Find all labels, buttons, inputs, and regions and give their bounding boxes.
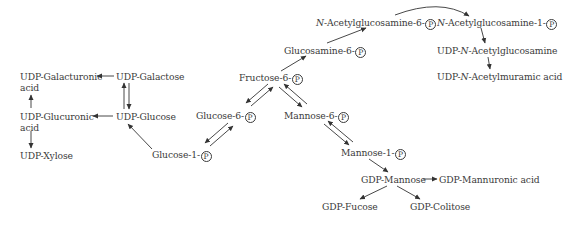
node-label: UDP-Xylose [20,150,73,161]
node-label: GDP-Fucose [322,201,378,212]
node-gdp-fucose: GDP-Fucose [322,201,378,212]
node-label: UDP-Galactose [116,71,184,82]
phosphate-circle-icon: P [201,151,212,162]
node-label: Glucose-6- [196,110,244,121]
node-mannose-6-phosphate: Mannose-6-P [284,110,349,123]
arrow-mannose1p-to-mannose6p [328,121,353,142]
node-n-acetylglucosamine-1-phosphate: N-Acetylglucosamine-1-P [437,17,557,30]
phosphate-circle-icon: P [355,47,366,58]
node-label: Mannose-1- [341,147,394,158]
node-mannose-1-phosphate: Mannose-1-P [341,147,406,160]
node-label: Glucose-1- [152,149,200,160]
node-label: GDP-Mannuronic acid [439,174,540,185]
node-glucose-1-phosphate: Glucose-1-P [152,149,212,162]
arrow-glucose1p-to-udpglucose [128,124,152,149]
phosphate-circle-icon: P [338,112,349,123]
node-label: -Acetylglucosamine-6- [324,17,425,28]
arrow-glucose6p-to-fructose6p [251,87,273,106]
phosphate-circle-icon: P [425,19,436,30]
node-fructose-6-phosphate: Fructose-6-P [239,72,303,85]
node-label-prefix: N [316,17,324,28]
arrow-fructose6p-to-glucosamine6p [281,56,306,71]
node-udp-n-acetylglucosamine: UDP-N-Acetylglucosamine [437,45,557,56]
node-gdp-mannuronic-acid: GDP-Mannuronic acid [439,174,540,185]
phosphate-circle-icon: P [546,19,557,30]
node-label-pre: UDP- [437,71,461,82]
arrow-mannose6p-to-mannose1p [324,124,349,145]
node-label-line1: UDP-Galacturonic [20,71,102,82]
node-label: UDP-Glucose [116,111,176,122]
node-gdp-colitose: GDP-Colitose [410,201,470,212]
node-gdp-mannose: GDP-Mannose [361,174,426,185]
phosphate-circle-icon: P [245,112,256,123]
node-label: Mannose-6- [284,110,337,121]
arrow-udpnacglcn-to-udpnacmur [488,57,490,69]
arrow-gdpmannose-to-gdpfucose [360,186,387,199]
node-udp-n-acetylmuramic-acid: UDP-N-Acetylmuramic acid [437,71,562,82]
node-label-line2: acid [20,122,94,133]
node-udp-galactose: UDP-Galactose [116,71,184,82]
node-label-line2: acid [20,82,102,93]
node-label-line1: UDP-Glucuronic [20,111,94,122]
node-label: -Acetylmuramic acid [468,71,562,82]
node-label: -Acetylglucosamine-1- [445,17,546,28]
node-label-prefix: N [437,17,445,28]
phosphate-circle-icon: P [395,149,406,160]
node-label-pre: UDP- [437,45,461,56]
arrow-nacglcn6p-to-nacglcn1p [395,7,469,16]
metabolic-pathway-diagram: UDP-Galacturonic acid UDP-Galactose UDP-… [0,0,575,225]
node-glucose-6-phosphate: Glucose-6-P [196,110,256,123]
node-udp-xylose: UDP-Xylose [20,150,73,161]
node-n-acetylglucosamine-6-phosphate: N-Acetylglucosamine-6-P [316,17,436,30]
node-label: -Acetylglucosamine [468,45,557,56]
arrow-glucosamine6p-to-nacglcn6p [327,28,366,43]
node-label: Glucosamine-6- [284,45,355,56]
phosphate-circle-icon: P [292,74,303,85]
node-udp-glucose: UDP-Glucose [116,111,176,122]
arrow-nacglcn1p-to-udpnacglcn [481,28,485,43]
node-udp-glucuronic-acid: UDP-Glucuronic acid [20,111,94,133]
node-label: Fructose-6- [239,72,291,83]
node-udp-galacturonic-acid: UDP-Galacturonic acid [20,71,102,93]
arrow-gdpmannose-to-gdpcolitose [397,186,420,199]
arrow-mannose1p-to-gdpmannose [369,159,388,172]
node-glucosamine-6-phosphate: Glucosamine-6-P [284,45,366,58]
node-label: GDP-Colitose [410,201,470,212]
node-label: GDP-Mannose [361,174,426,185]
arrow-fructose6p-to-glucose6p [246,84,268,103]
